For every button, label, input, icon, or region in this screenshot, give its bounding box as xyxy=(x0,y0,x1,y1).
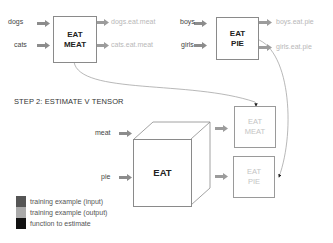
output-box-eat-meat: EATMEAT xyxy=(234,106,276,148)
legend-item-output: training example (output) xyxy=(16,207,107,218)
legend-item-function: function to estimate xyxy=(16,218,91,229)
output-label-line2: PIE xyxy=(247,177,261,187)
legend-swatch-input xyxy=(16,196,26,207)
input-label-cats: cats xyxy=(14,41,27,48)
step2-title: STEP 2: ESTIMATE V TENSOR xyxy=(14,97,124,106)
output-box-eat-pie: EATPIE xyxy=(233,156,275,198)
input-label-boys: boys xyxy=(180,18,195,25)
output-label-line1: EAT xyxy=(245,117,265,127)
output-label-line1: EAT xyxy=(247,167,261,177)
tensor-cube-front: EAT xyxy=(133,139,192,207)
function-label-line1: EAT xyxy=(64,30,86,40)
legend-swatch-function xyxy=(16,218,26,229)
output-label-dogs-eat-meat: dogs.eat.meat xyxy=(111,18,155,25)
input-label-dogs: dogs xyxy=(8,18,23,25)
output-label-cats-eat-meat: cats.eat.meat xyxy=(111,41,153,48)
function-box-eat-meat: EATMEAT xyxy=(53,16,97,63)
input-label-meat: meat xyxy=(95,129,111,136)
function-label-line2: MEAT xyxy=(64,40,86,50)
tensor-label: EAT xyxy=(153,168,171,178)
function-label-line1: EAT xyxy=(230,29,245,39)
output-label-boys-eat-pie: boys.eat.pie xyxy=(276,18,314,25)
output-label-line2: MEAT xyxy=(245,127,265,137)
legend-swatch-output xyxy=(16,207,26,218)
output-label-girls-eat-pie: girls.eat.pie xyxy=(276,43,312,50)
function-label-line2: PIE xyxy=(230,39,245,49)
input-label-girls: girls xyxy=(181,41,194,48)
function-box-eat-pie: EATPIE xyxy=(216,17,259,60)
input-label-pie: pie xyxy=(101,173,110,180)
legend-item-input: training example (input) xyxy=(16,196,103,207)
